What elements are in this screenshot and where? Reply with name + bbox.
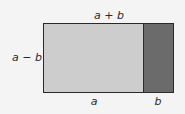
left-height-label: a − b (6, 52, 42, 64)
dark-rectangle (143, 23, 174, 93)
bottom-light-width-label: a (88, 96, 100, 108)
area-diagram: a + b a − b a b (0, 0, 185, 114)
bottom-dark-width-label: b (152, 96, 164, 108)
top-width-label: a + b (91, 10, 127, 22)
